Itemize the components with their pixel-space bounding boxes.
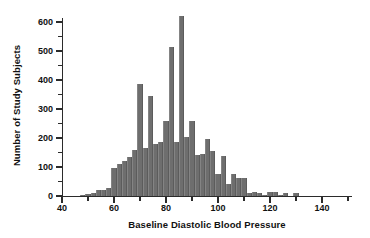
histogram-bars bbox=[0, 0, 370, 238]
histogram-bar bbox=[293, 193, 298, 196]
histogram-bar bbox=[283, 193, 288, 196]
histogram-figure: Number of Study Subjects Baseline Diasto… bbox=[0, 0, 370, 238]
